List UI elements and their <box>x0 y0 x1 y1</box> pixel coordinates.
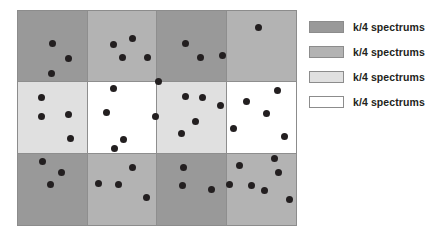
grid-cell-r1c3 <box>157 11 227 82</box>
legend-item: k/4 spectrums <box>309 14 431 39</box>
partition-grid <box>17 10 297 226</box>
grid-cell-r2c3 <box>157 82 227 153</box>
grid-cell-r3c4 <box>227 154 297 225</box>
grid-cell-r1c1 <box>18 11 88 82</box>
grid-cell-r3c1 <box>18 154 88 225</box>
legend-item-label: k/4 spectrums <box>353 96 425 108</box>
grid-cell-r2c2 <box>88 82 158 153</box>
grid-cell-r1c2 <box>88 11 158 82</box>
legend-item-label: k/4 spectrums <box>353 21 425 33</box>
legend-item-label: k/4 spectrums <box>353 71 425 83</box>
white-swatch <box>309 96 344 108</box>
grid-cell-r3c2 <box>88 154 158 225</box>
grid-cell-r1c4 <box>227 11 297 82</box>
grid-cells <box>18 11 296 225</box>
legend-item-label: k/4 spectrums <box>353 46 425 58</box>
legend-item: k/4 spectrums <box>309 89 431 114</box>
medium-gray-swatch <box>309 46 344 58</box>
dark-gray-swatch <box>309 21 344 33</box>
light-gray-swatch <box>309 71 344 83</box>
grid-cell-r2c4 <box>227 82 297 153</box>
legend: k/4 spectrums k/4 spectrums k/4 spectrum… <box>309 14 431 114</box>
figure-root: k/4 spectrums k/4 spectrums k/4 spectrum… <box>0 0 434 236</box>
legend-item: k/4 spectrums <box>309 64 431 89</box>
grid-cell-r3c3 <box>157 154 227 225</box>
legend-item: k/4 spectrums <box>309 39 431 64</box>
grid-cell-r2c1 <box>18 82 88 153</box>
